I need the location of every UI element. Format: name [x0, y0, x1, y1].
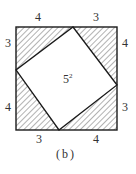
- label-left-bottom: 4: [5, 100, 11, 114]
- label-right-bottom: 3: [122, 100, 128, 114]
- label-top-right: 3: [93, 10, 99, 24]
- center-exponent: 2: [69, 72, 73, 80]
- figure-caption: (b): [56, 147, 76, 161]
- label-right-top: 4: [122, 36, 128, 50]
- pythagorean-square-diagram: 4 3 4 3 3 4 3 4 52 (b): [0, 0, 136, 174]
- label-bottom-left: 3: [36, 132, 42, 146]
- label-bottom-right: 4: [93, 132, 99, 146]
- label-top-left: 4: [35, 10, 41, 24]
- label-left-top: 3: [5, 36, 11, 50]
